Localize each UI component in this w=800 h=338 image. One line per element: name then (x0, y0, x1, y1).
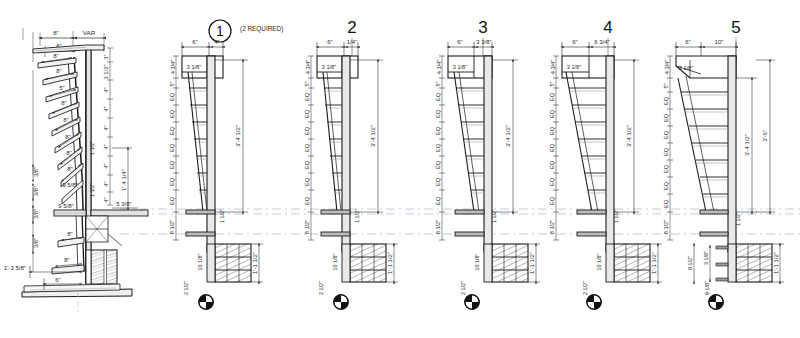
tread-dim-4: 8" (61, 100, 66, 106)
detail-1-post (207, 56, 215, 252)
riser-dim-7: 4" (103, 163, 109, 168)
tread-dim-7: 8" (66, 150, 71, 156)
detail-1-right-overall: 3'-4 1/2" (235, 125, 241, 147)
detail-1-eq-7: EQ (169, 196, 175, 205)
detail-4-eq-4: EQ (549, 143, 555, 152)
detail-1-top-left-dim: 6" (192, 39, 197, 45)
detail-3-right-overall: 3'-4 1/2" (505, 125, 511, 147)
detail-1-eq-4: EQ (169, 143, 175, 152)
detail-2-base-height: 1'-1 1/2" (387, 252, 393, 274)
detail-3-base (484, 244, 528, 282)
detail-1-eq-3: EQ (169, 126, 175, 135)
riser-dim-4: 4" (103, 106, 109, 111)
detail-5-eq-3: EQ (663, 130, 669, 139)
drawing-sheet: 8" VAR 6" (0, 0, 800, 338)
sub-dim-right: 5 3/8" (116, 201, 131, 207)
detail-1-base (207, 244, 251, 282)
detail-4-top-right-dim: 6 3/4" (594, 39, 609, 45)
detail-5-eq-4: EQ (663, 147, 669, 156)
detail-3-base-left-dim: 10 1/8" (474, 253, 480, 270)
detail-5-base-col-dim: 8 1/2" (687, 256, 693, 270)
tread-dim-5: 8" (63, 117, 68, 123)
tread-dim-8: 8" (67, 166, 72, 172)
detail-3-eq-4: EQ (435, 143, 441, 152)
riser-dim-3: 4" (103, 87, 109, 92)
detail-3-number: 3 (478, 18, 487, 37)
detail-1-plate-thk: 1 1/2" (219, 209, 225, 223)
detail-4-plate-thk: 1 1/2" (613, 209, 619, 223)
mid-landing (54, 210, 148, 216)
detail-2-base (342, 244, 386, 282)
detail-4-base-height: 1'-1 1/2" (651, 252, 657, 274)
bottom-dim-2: 6" (55, 277, 60, 283)
detail-2-head-w-dim: 3 1/8" (322, 64, 336, 70)
detail-4-eq-2: EQ (549, 109, 555, 118)
detail-2-number: 2 (347, 18, 356, 37)
detail-2-head-h-dim: 4 3/4" (305, 60, 311, 74)
detail-4-eq-3: EQ (549, 126, 555, 135)
small-dim-2: 3/8" (33, 186, 39, 196)
detail-2-top-right-dim: 1/4" (347, 39, 357, 45)
detail-5-bottom-riser: 8 1/2" (663, 220, 669, 234)
detail-5-base-left-dim: 9 1/8" (704, 281, 710, 295)
detail-1-head-h-dim: 4 3/4" (170, 60, 176, 74)
footing-assembly (86, 250, 117, 284)
detail-3-head-h-dim: 4 3/4" (436, 60, 442, 74)
detail-2-eq-3: EQ (304, 126, 310, 135)
detail-5-eq-7: EQ (663, 199, 669, 208)
detail-1-eq-2: EQ (169, 109, 175, 118)
detail-5-head-h-dim: 4 3/4" (664, 60, 670, 74)
detail-2-post (342, 56, 350, 252)
tread-dim-3: 5" (59, 85, 64, 91)
dim-top-8in: 8" (53, 29, 59, 36)
tread-dim-1: 8" (53, 53, 58, 59)
detail-2-eq-6: EQ (304, 177, 310, 186)
detail-5-eq-5: EQ (663, 164, 669, 173)
detail-5-right-overall-2: 3'-6" (762, 130, 768, 142)
detail-3-head-w-dim: 3 1/8" (453, 64, 467, 70)
overall-dim-right: 1'-4 1/4" (121, 169, 127, 191)
tread-dim-9: 9 5/8" (62, 182, 77, 188)
detail-4-base-left-dim: 10 1/8" (596, 253, 602, 270)
detail-3-eq-3: EQ (435, 126, 441, 135)
detail-5-eq-6: EQ (663, 181, 669, 190)
detail-4-bottom-riser: 8 1/2" (549, 220, 555, 234)
detail-2-base-bottom-dim: 2 1/2" (318, 281, 324, 295)
detail-1-number: 1 (216, 23, 224, 39)
detail-2-compass-icon (334, 295, 348, 309)
detail-3-base-bottom-dim: 2 1/2" (460, 281, 466, 295)
detail-3-base-height: 1'-1 1/2" (529, 252, 535, 274)
detail-1-head-w-dim: 3 1/8" (187, 64, 201, 70)
detail-3-bottom-riser: 8 1/2" (435, 220, 441, 234)
detail-3-eq-7: EQ (435, 196, 441, 205)
detail-5-number: 5 (731, 18, 740, 37)
detail-4-top-left-dim: 6" (572, 39, 577, 45)
detail-4-base-bottom-dim: 2 1/2" (582, 281, 588, 295)
base-slab (22, 284, 132, 297)
landing-note: 9 5/8" (58, 203, 73, 209)
detail-2-plate-thk: 1 1/2" (354, 209, 360, 223)
detail-5-plate-thk: 1 1/2" (735, 212, 741, 226)
detail-1-bottom-riser: 8 1/2" (169, 220, 175, 234)
tread-dim-11: 8" (64, 257, 69, 263)
thickness-dim-2: 1 1/2" (89, 183, 95, 197)
detail-1-eq-5: EQ (169, 160, 175, 169)
detail-3-eq-1: EQ (435, 92, 441, 101)
detail-4-base (606, 244, 650, 282)
detail-1-eq-1: EQ (169, 92, 175, 101)
riser-dim-8: 4" (103, 181, 109, 186)
detail-1-top-right-dim: 4" (214, 39, 219, 45)
small-dim-3: 3/8" (33, 209, 39, 219)
detail-5-base-height: 1'-1 1/2" (773, 252, 779, 274)
tread-dim-2: 8" (56, 68, 61, 74)
tread-dim-10: 8" (67, 231, 72, 237)
dim-top-var: VAR (83, 29, 96, 36)
detail-3-eq-6: EQ (435, 177, 441, 186)
detail-2-top-left-dim: 6" (327, 39, 332, 45)
detail-2-eq-1: EQ (304, 92, 310, 101)
detail-5-top-right-dim: 10" (715, 39, 724, 45)
detail-1-base-left-dim: 10 1/8" (197, 253, 203, 270)
detail-5-head-w-dim: 3 1/8" (679, 65, 693, 71)
detail-2-eq-4: EQ (304, 143, 310, 152)
detail-5-compass-icon (709, 295, 723, 309)
